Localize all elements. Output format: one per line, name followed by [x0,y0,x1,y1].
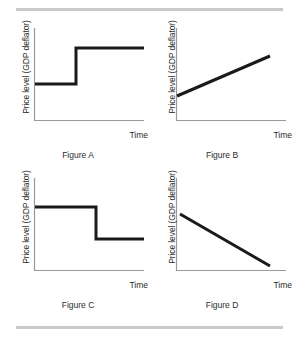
figure-c-y-axis-label: Price level (GDP deflator) [21,169,31,265]
figure-a-data-line [35,48,144,84]
figure-a-x-axis-label: Time [129,130,148,140]
figure-a-y-axis-label: Price level (GDP deflator) [21,19,31,115]
figure-d-x-axis-label: Time [273,280,292,290]
figure-c-caption: Figure C [8,300,148,310]
figure-c: Price level (GDP deflator) Time Figure C [8,176,148,321]
bottom-divider [16,326,283,329]
figure-c-x-axis-label: Time [129,280,148,290]
figure-a-caption: Figure A [8,150,148,160]
figure-sheet: Price level (GDP deflator) Time Figure A… [0,0,299,339]
figure-d-data-line [180,214,270,266]
figure-b-x-axis-label: Time [273,130,292,140]
figure-b-data-line [177,56,270,96]
figure-d-caption: Figure D [152,300,292,310]
figure-b: Price level (GDP deflator) Time Figure B [152,26,292,171]
figure-b-y-axis-label: Price level (GDP deflator) [167,19,177,115]
top-divider [16,8,283,11]
figure-d: Price level (GDP deflator) Time Figure D [152,176,292,321]
figure-b-caption: Figure B [152,150,292,160]
figure-a: Price level (GDP deflator) Time Figure A [8,26,148,171]
figure-c-data-line [35,207,144,239]
figure-d-y-axis-label: Price level (GDP deflator) [167,169,177,265]
